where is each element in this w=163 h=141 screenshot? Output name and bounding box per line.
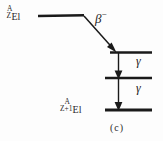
gamma-lower-label: γ [136, 82, 141, 94]
daughter-atomic-number: Z+1 [60, 105, 73, 112]
daughter-nuclide-label: A Z+1 El [60, 98, 81, 113]
daughter-mass-number: A [61, 98, 74, 105]
parent-ground-level-line [38, 15, 84, 16]
figure-caption: (c) [110, 122, 124, 133]
gamma-upper-label: γ [136, 55, 141, 67]
decay-scheme-figure: A Z El β− γ γ A Z+1 El (c) [0, 0, 163, 141]
parent-element-symbol: El [11, 12, 20, 22]
daughter-nuclide-numbers: A Z+1 [60, 98, 73, 112]
parent-nuclide-label: A Z El [6, 5, 20, 20]
decay-scheme-drawing [0, 0, 163, 141]
beta-charge-sign: − [101, 9, 106, 19]
beta-minus-label: β− [95, 11, 107, 25]
daughter-element-symbol: El [73, 105, 82, 115]
